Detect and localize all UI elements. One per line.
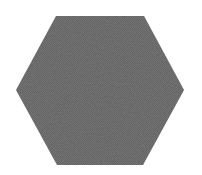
hexagon-graphic [0,0,202,175]
canvas [0,0,202,175]
hexagon-shape [16,16,184,165]
